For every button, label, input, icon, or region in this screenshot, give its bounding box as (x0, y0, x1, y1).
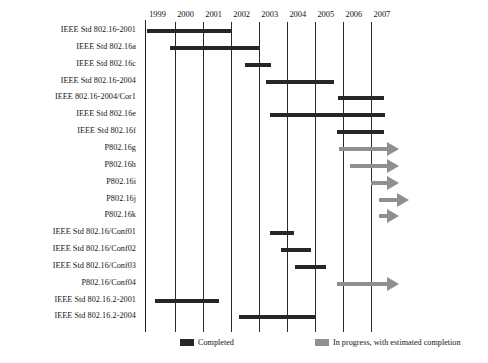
task-bar (295, 265, 326, 269)
year-label-2003: 2003 (261, 10, 278, 19)
task-bar (270, 113, 385, 117)
year-label-2004: 2004 (289, 10, 306, 19)
year-label-2006: 2006 (345, 10, 362, 19)
task-bar (339, 147, 387, 151)
gridline-2004 (287, 22, 288, 332)
year-label-2001: 2001 (205, 10, 222, 19)
task-bar (270, 231, 294, 235)
year-label-2007: 2007 (374, 10, 391, 19)
task-bar (337, 130, 383, 134)
task-bar (266, 80, 335, 84)
legend-entry-progress: In progress, with estimated completion (315, 338, 461, 347)
gantt-timeline-chart: IEEE Std 802.16-2001IEEE Std 802.16aIEEE… (0, 0, 488, 363)
chart-legend: CompletedIn progress, with estimated com… (145, 334, 488, 363)
task-bar (155, 299, 220, 303)
year-label-2000: 2000 (177, 10, 194, 19)
arrow-head-icon (387, 159, 399, 173)
task-bar (350, 164, 387, 168)
gridline-2001 (203, 22, 204, 332)
gridline-2003 (259, 22, 260, 332)
year-label-2005: 2005 (317, 10, 334, 19)
year-label-1999: 1999 (149, 10, 166, 19)
arrow-head-icon (387, 142, 399, 156)
task-bar (337, 282, 387, 286)
legend-entry-completed: Completed (180, 338, 234, 347)
arrow-head-icon (387, 209, 399, 223)
timeline-plot-area: 199920002001200220032004200520062007 (0, 0, 488, 363)
task-bar (281, 248, 310, 252)
gridline-2005 (315, 22, 316, 332)
task-bar (371, 181, 387, 185)
task-bar (239, 315, 316, 319)
arrow-head-icon (387, 176, 399, 190)
gridline-2000 (175, 22, 176, 332)
legend-label: In progress, with estimated completion (333, 338, 461, 347)
task-bar (338, 96, 384, 100)
year-label-2002: 2002 (233, 10, 250, 19)
y-axis-line (145, 20, 146, 332)
gridline-2002 (231, 22, 232, 332)
legend-label: Completed (198, 338, 234, 347)
task-bar (379, 198, 396, 202)
task-bar (245, 63, 272, 67)
task-bar (170, 46, 258, 50)
task-bar (379, 214, 387, 218)
legend-swatch-completed (180, 339, 194, 346)
task-bar (147, 29, 232, 33)
arrow-head-icon (387, 277, 399, 291)
arrow-head-icon (397, 193, 409, 207)
legend-swatch-progress (315, 339, 329, 346)
